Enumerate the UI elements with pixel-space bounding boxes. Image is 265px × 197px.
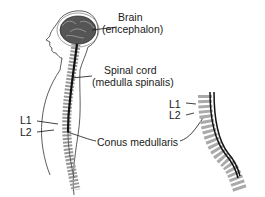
label-brain: Brain	[118, 11, 143, 23]
label-l2-left: L2	[20, 126, 32, 138]
label-spinal-cord: Spinal cord	[104, 64, 157, 76]
label-conus-medullaris: Conus medullaris	[97, 136, 178, 148]
label-brain-latin: (encephalon)	[102, 23, 163, 35]
label-l1-left: L1	[20, 114, 32, 126]
label-spinal-cord-latin: (medulla spinalis)	[92, 76, 174, 88]
lumbar-spine-detail	[205, 92, 240, 190]
label-l2-right: L2	[169, 109, 181, 121]
spinal-column-left	[67, 44, 77, 190]
